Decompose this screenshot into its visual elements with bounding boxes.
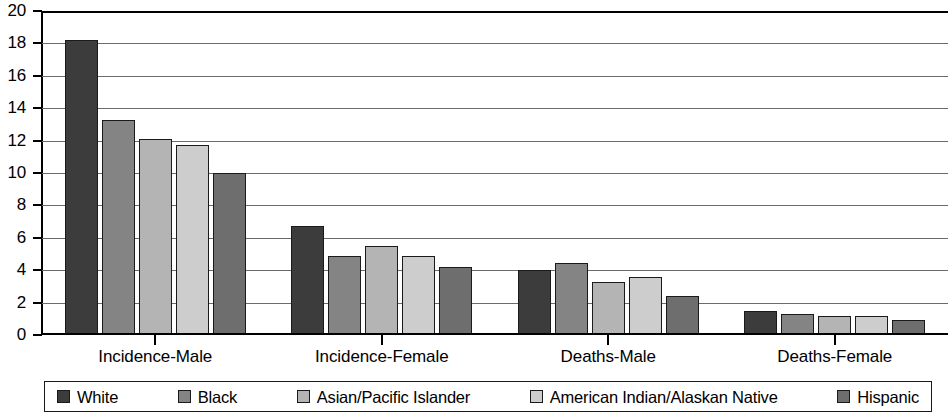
plot-area (42, 11, 948, 335)
bar-group (269, 11, 496, 335)
y-axis-tick-label: 2 (0, 294, 26, 311)
bar (176, 145, 209, 335)
bar (744, 311, 777, 335)
legend-label: White (77, 388, 118, 406)
y-axis-tick-label: 10 (0, 164, 26, 181)
legend-item: Black (178, 388, 237, 406)
bar (592, 282, 625, 335)
bar-groups (42, 11, 948, 335)
bar-group (42, 11, 269, 335)
y-axis-tick (33, 172, 42, 174)
y-axis-tick (33, 204, 42, 206)
legend-item: Asian/Pacific Islander (297, 388, 470, 406)
y-axis-tick-label: 16 (0, 67, 26, 84)
bar (555, 263, 588, 335)
legend-swatch-icon (530, 390, 543, 403)
bar (328, 256, 361, 335)
y-axis-tick (33, 75, 42, 77)
x-axis-category-label: Deaths-Male (495, 344, 722, 374)
legend-swatch-icon (837, 390, 850, 403)
legend-item: Hispanic (837, 388, 919, 406)
bar (629, 277, 662, 335)
y-axis-tick-label: 0 (0, 326, 26, 343)
y-axis-tick-label: 4 (0, 261, 26, 278)
legend-swatch-icon (57, 390, 70, 403)
bar (666, 296, 699, 335)
y-axis-tick (33, 42, 42, 44)
y-axis-tick (33, 334, 42, 336)
y-axis-tick (33, 269, 42, 271)
bar-group (722, 11, 949, 335)
legend-swatch-icon (297, 390, 310, 403)
y-axis-tick (33, 107, 42, 109)
legend-label: Asian/Pacific Islander (317, 388, 470, 406)
legend-label: Hispanic (857, 388, 919, 406)
x-axis-labels: Incidence-MaleIncidence-FemaleDeaths-Mal… (42, 344, 948, 374)
bar (291, 226, 324, 335)
y-axis-tick (33, 302, 42, 304)
x-axis-category-label: Incidence-Female (269, 344, 496, 374)
x-axis-category-label: Incidence-Male (42, 344, 269, 374)
y-axis-labels: 02468101214161820 (0, 0, 26, 340)
bar (518, 270, 551, 335)
legend-item: White (57, 388, 118, 406)
bar (781, 314, 814, 335)
legend-swatch-icon (178, 390, 191, 403)
bar (102, 120, 135, 335)
y-axis-tick-label: 12 (0, 132, 26, 149)
x-axis-line (42, 333, 948, 335)
bar (139, 139, 172, 335)
bar (365, 246, 398, 335)
bar (213, 173, 246, 335)
x-axis-category-label: Deaths-Female (722, 344, 949, 374)
bar (402, 256, 435, 335)
y-axis-tick-label: 8 (0, 196, 26, 213)
legend-label: Black (198, 388, 237, 406)
bar (65, 40, 98, 335)
y-axis-tick (33, 140, 42, 142)
y-axis-tick-label: 18 (0, 34, 26, 51)
y-axis-tick (33, 10, 42, 12)
bar-group (495, 11, 722, 335)
bar (439, 267, 472, 335)
y-axis-tick-label: 20 (0, 2, 26, 19)
legend-label: American Indian/Alaskan Native (550, 388, 778, 406)
y-axis-tick (33, 237, 42, 239)
legend-item: American Indian/Alaskan Native (530, 388, 778, 406)
bar-chart: 02468101214161820 Incidence-MaleIncidenc… (0, 0, 950, 418)
y-axis-tick-label: 6 (0, 229, 26, 246)
y-axis-tick-label: 14 (0, 99, 26, 116)
chart-legend: WhiteBlackAsian/Pacific IslanderAmerican… (44, 381, 932, 412)
